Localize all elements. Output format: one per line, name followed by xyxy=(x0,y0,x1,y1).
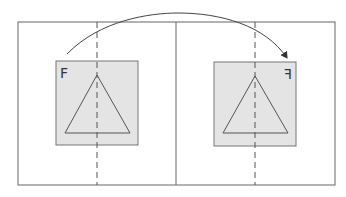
left-panel: F xyxy=(56,22,138,185)
reflection-diagram: F F xyxy=(0,0,346,197)
right-panel: F xyxy=(214,22,296,185)
right-letter-f-mirrored: F xyxy=(284,66,292,82)
curved-arrow xyxy=(67,13,287,58)
left-letter-f: F xyxy=(60,65,68,81)
